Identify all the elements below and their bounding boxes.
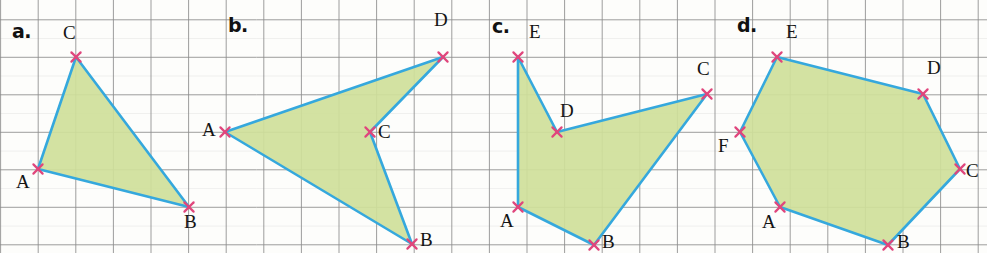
vertex-label-b-d: D bbox=[434, 10, 448, 29]
vertex-label-c-c: C bbox=[697, 59, 710, 78]
vertex-label-d-c: C bbox=[966, 161, 979, 180]
panel-label-d: d. bbox=[737, 14, 757, 36]
vertex-label-a-c: C bbox=[63, 23, 76, 42]
panel-label-a: a. bbox=[12, 20, 31, 42]
vertex-label-d-b: B bbox=[897, 232, 910, 251]
vertex-label-b-c: C bbox=[378, 122, 391, 141]
vertex-label-c-b: B bbox=[602, 232, 615, 251]
vertex-label-c-d: D bbox=[560, 101, 574, 120]
vertex-label-a-a: A bbox=[16, 172, 30, 191]
worksheet-figure: a.ABCb.ABCDc.ABCDEd.ABCDEF bbox=[0, 0, 987, 253]
vertex-label-b-a: A bbox=[202, 120, 216, 139]
vertex-label-c-e: E bbox=[529, 22, 541, 41]
panel-label-b: b. bbox=[228, 14, 248, 36]
panel-label-c: c. bbox=[492, 15, 509, 37]
vertex-label-c-a: A bbox=[500, 211, 514, 230]
vertex-label-d-d: D bbox=[927, 58, 941, 77]
grid-background bbox=[0, 0, 987, 253]
vertex-label-d-a: A bbox=[762, 212, 776, 231]
vertex-label-a-b: B bbox=[184, 212, 197, 231]
vertex-label-b-b: B bbox=[420, 230, 433, 249]
vertex-label-d-e: E bbox=[786, 22, 798, 41]
vertex-label-d-f: F bbox=[718, 136, 729, 155]
